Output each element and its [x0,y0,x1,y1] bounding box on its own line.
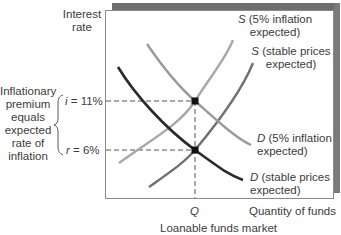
label-line: expected) [225,26,325,39]
r-rate-tick: r = 6% [66,144,100,157]
premium-line: inflation [0,150,56,163]
frame-shadow-top [112,3,340,10]
label-line: (5% inflation [265,132,331,144]
premium-line: premium [0,98,56,111]
y-axis-label-line1: Interest [62,8,102,21]
premium-line: Inflationary [0,85,56,98]
premium-annotation: Inflationary premium equals expected rat… [0,85,56,163]
y-axis-label: Interest rate [62,8,102,34]
label-demand-inflation: D (5% inflation expected) [257,132,332,158]
equilibrium-point-inflation [192,98,199,105]
q-tick: Q [190,205,199,218]
label-line: expected) [250,58,332,71]
label-demand-stable: D (stable prices expected) [250,171,330,197]
premium-line: expected [0,124,56,137]
i-val: = 11% [68,95,103,107]
label-line: (5% inflation [246,13,312,25]
label-line: expected) [257,145,332,158]
y-axis-label-line2: rate [62,21,102,34]
premium-line: rate of [0,137,56,150]
loanable-funds-figure: Interest rate i = 11% r = 6% Inflationar… [0,0,341,235]
label-line: (stable prices [259,45,331,57]
x-axis-label: Quantity of funds [249,205,336,218]
premium-line: equals [0,111,56,124]
chart-caption: Loanable funds market [160,222,277,235]
label-line: expected) [250,184,330,197]
equilibrium-point-stable [192,147,199,154]
label-supply-stable: S (stable prices expected) [250,45,332,71]
label-supply-inflation: S (5% inflation expected) [225,13,325,39]
r-val: = 6% [70,144,100,156]
frame-shadow-right [334,3,340,193]
s-var: S [251,45,259,57]
i-rate-tick: i = 11% [65,95,103,108]
label-line: (stable prices [258,171,330,183]
s-var: S [238,13,246,25]
